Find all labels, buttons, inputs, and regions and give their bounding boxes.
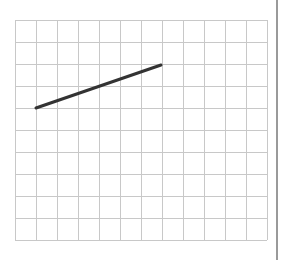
right-border-divider	[276, 0, 278, 260]
grid-diagram	[0, 0, 286, 260]
graph-paper-grid	[15, 20, 268, 241]
